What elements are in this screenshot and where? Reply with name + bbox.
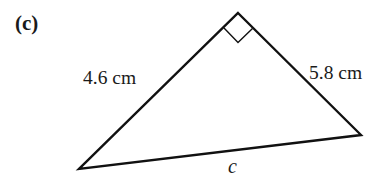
right-leg-label: 5.8 cm <box>309 62 362 83</box>
right-triangle <box>79 13 361 169</box>
part-label: (c) <box>15 11 38 35</box>
right-angle-marker <box>224 28 253 43</box>
hypotenuse-label: c <box>228 155 237 177</box>
left-leg-label: 4.6 cm <box>83 67 136 88</box>
triangle-diagram: (c) 4.6 cm 5.8 cm c <box>0 0 389 180</box>
